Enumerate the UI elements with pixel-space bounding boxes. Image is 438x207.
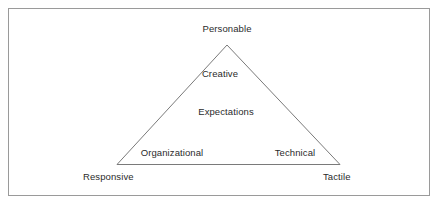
label-tactile: Tactile [323,171,351,182]
label-personable: Personable [202,23,251,34]
label-expectations: Expectations [198,106,254,117]
diagram-frame-border [8,8,430,196]
label-organizational: Organizational [141,147,204,158]
label-responsive: Responsive [83,171,134,182]
label-creative: Creative [202,68,238,79]
label-technical: Technical [275,147,316,158]
diagram-canvas: Personable Creative Expectations Organiz… [0,0,438,207]
